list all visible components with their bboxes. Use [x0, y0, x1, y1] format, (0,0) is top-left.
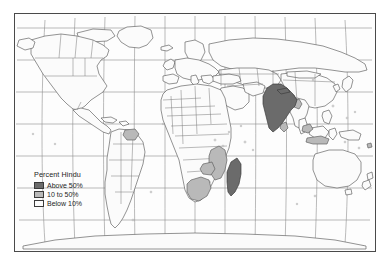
legend-item-10-to-50: 10 to 50%	[34, 191, 101, 199]
legend-swatch-10-to-50	[34, 191, 44, 198]
world-map-graphic	[15, 14, 374, 250]
legend-item-above-50: Above 50%	[34, 182, 101, 190]
land-turkey-caucasus	[213, 74, 241, 84]
legend-label-above-50: Above 50%	[47, 182, 83, 190]
legend-item-below-10: Below 10%	[34, 200, 101, 208]
land-tasmania	[345, 189, 352, 195]
region-fiji	[367, 143, 372, 148]
figure-page: Percent Hindu Above 50% 10 to 50% Below …	[0, 0, 390, 271]
land-australia	[313, 150, 361, 188]
legend-title: Percent Hindu	[34, 171, 101, 179]
legend-label-below-10: Below 10%	[47, 200, 82, 208]
legend-label-10-to-50: 10 to 50%	[47, 191, 79, 199]
world-map-figure: Percent Hindu Above 50% 10 to 50% Below …	[14, 13, 376, 252]
legend-swatch-below-10	[34, 200, 44, 207]
land-iberia	[163, 74, 179, 84]
map-legend: Percent Hindu Above 50% 10 to 50% Below …	[31, 169, 103, 212]
legend-swatch-above-50	[34, 182, 44, 189]
